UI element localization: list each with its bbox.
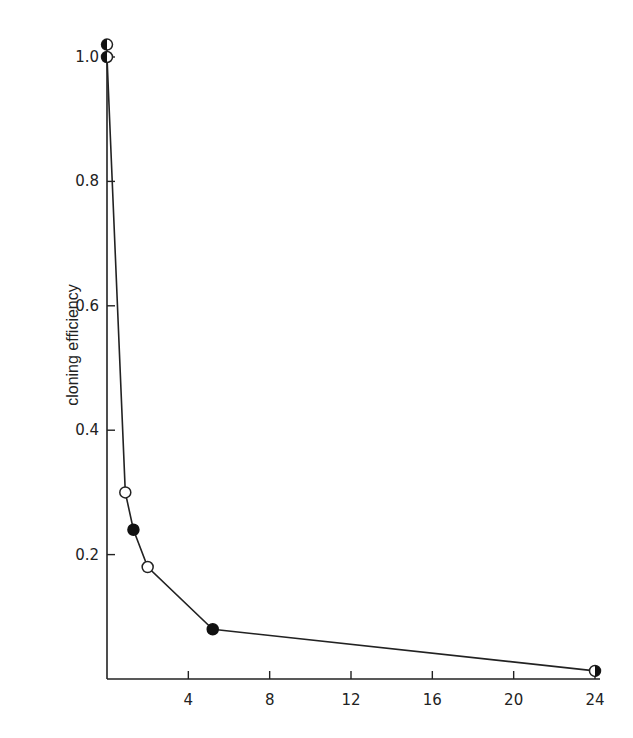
x-tick-label: 12 (341, 691, 360, 709)
tick-labels: 48121620240.20.40.60.81.0 (75, 48, 604, 709)
axes (107, 40, 600, 679)
y-tick-label: 0.4 (75, 421, 99, 439)
x-tick-label: 24 (585, 691, 604, 709)
series-line (107, 57, 595, 671)
filled-circle-marker (128, 524, 139, 535)
half-filled-circle-marker (102, 39, 113, 50)
x-tick-label: 20 (504, 691, 523, 709)
y-tick-label: 1.0 (75, 48, 99, 66)
half-filled-circle-marker (590, 665, 601, 676)
open-circle-marker (120, 487, 131, 498)
x-tick-label: 16 (423, 691, 442, 709)
x-tick-label: 4 (184, 691, 194, 709)
filled-circle-marker (207, 624, 218, 635)
half-filled-circle-marker (102, 52, 113, 63)
y-axis-label: cloning efficiency (64, 284, 81, 406)
x-tick-label: 8 (265, 691, 275, 709)
y-tick-label: 0.8 (75, 172, 99, 190)
chart: 48121620240.20.40.60.81.0 cloning effici… (0, 0, 633, 738)
ticks (107, 57, 595, 679)
open-circle-marker (142, 562, 153, 573)
data-markers (102, 39, 601, 676)
y-tick-label: 0.2 (75, 546, 99, 564)
